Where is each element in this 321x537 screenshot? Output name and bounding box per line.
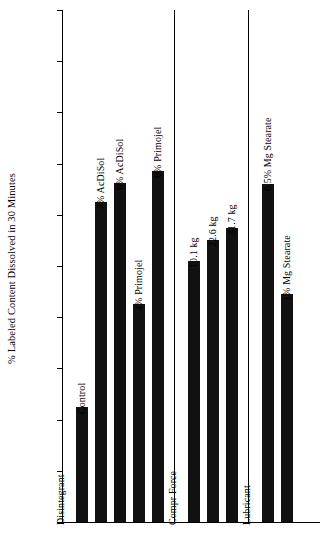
bar (226, 228, 238, 522)
y-tick (57, 317, 62, 318)
x-axis-line (61, 522, 320, 523)
bar-label: 4% AcDiSol (95, 158, 106, 209)
y-axis-line (62, 10, 63, 522)
plot-area: 0102030405060708090100 Control4% AcDiSol… (62, 10, 317, 522)
bar-label: 31.7 kg (226, 204, 237, 235)
y-tick (57, 266, 62, 267)
y-axis-title: % Labeled Content Dissolved in 30 Minute… (0, 0, 22, 537)
y-tick (57, 368, 62, 369)
group-label: Lubricant (241, 485, 252, 525)
group-separator (248, 10, 249, 522)
bar (95, 202, 107, 522)
y-tick (57, 471, 62, 472)
bar-label: 6% AcDiSol (114, 139, 125, 190)
bar (281, 294, 293, 522)
bar (152, 171, 164, 522)
y-tick (57, 61, 62, 62)
y-tick (57, 10, 62, 11)
bar-label: 22.6 kg (207, 217, 218, 248)
group-label: Disintegrant (55, 474, 66, 525)
group-label: Compr Force (167, 471, 178, 525)
y-tick (57, 420, 62, 421)
y-tick (57, 164, 62, 165)
bar-label: 4% Primojel (133, 260, 144, 311)
bar-label: 6% Primojel (152, 127, 163, 178)
bar-chart: % Labeled Content Dissolved in 30 Minute… (0, 0, 321, 537)
bar (207, 240, 219, 522)
y-tick (57, 215, 62, 216)
group-separator (174, 10, 175, 522)
bar (133, 304, 145, 522)
bar-label: 10.1 kg (188, 237, 199, 268)
bar (114, 183, 126, 522)
y-tick (57, 112, 62, 113)
bar-label: Control (76, 383, 87, 414)
bar (76, 407, 88, 522)
bar (188, 261, 200, 522)
bar-label: 0.5% Mg Stearate (262, 118, 273, 192)
bar-label: 1% Mg Stearate (281, 235, 292, 301)
bar (262, 184, 274, 522)
